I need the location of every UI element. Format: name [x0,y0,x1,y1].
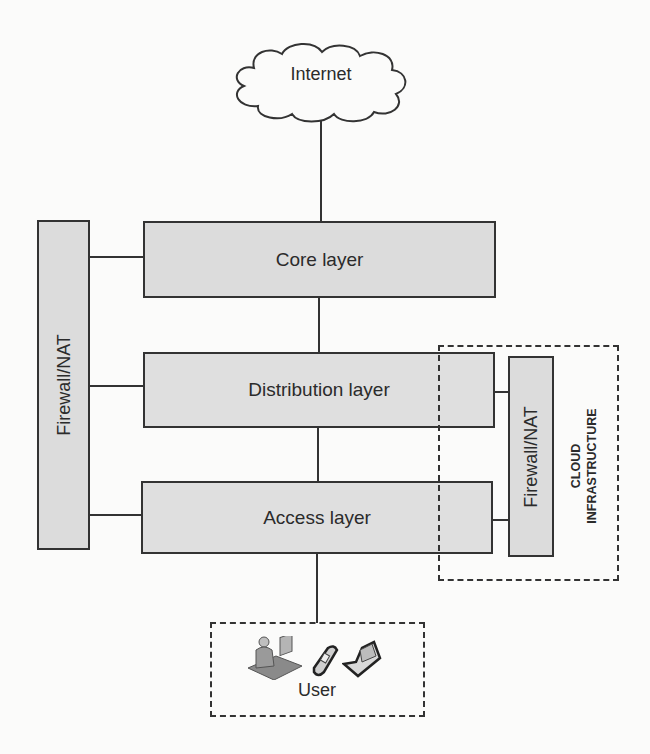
connector-access-cloud-firewall [492,519,509,521]
access-layer: Access layer [141,481,493,554]
connector-firewall-access [89,514,142,516]
distribution-layer: Distribution layer [143,352,495,428]
cloud-infrastructure-label-line2: INFRASTRUCTURE [584,408,600,523]
connector-access-user [316,553,318,623]
access-layer-label: Access layer [263,507,371,529]
cloud-region-left-edge [438,345,440,581]
cloud-firewall-nat: Firewall/NAT [508,356,554,557]
connector-firewall-distribution [89,385,144,387]
mobile-phone-icon [310,644,340,678]
cloud-infrastructure-label-line1: CLOUD [568,408,584,523]
distribution-layer-label: Distribution layer [248,379,390,401]
cloud-firewall-label: Firewall/NAT [521,406,542,508]
user-label: User [210,680,424,701]
connector-distribution-cloud-firewall [494,391,509,393]
connector-internet-core [320,120,322,222]
laptop-icon [342,640,382,678]
connector-firewall-core [89,256,144,258]
cloud-infrastructure-label: CLOUD INFRASTRUCTURE [568,408,600,523]
person-at-desk-icon [246,636,304,680]
left-firewall-nat: Firewall/NAT [37,220,90,550]
connector-core-distribution [318,297,320,353]
connector-distribution-access [317,427,319,482]
core-layer: Core layer [143,221,496,298]
internet-label: Internet [228,64,414,85]
left-firewall-label: Firewall/NAT [53,334,74,436]
core-layer-label: Core layer [276,249,364,271]
